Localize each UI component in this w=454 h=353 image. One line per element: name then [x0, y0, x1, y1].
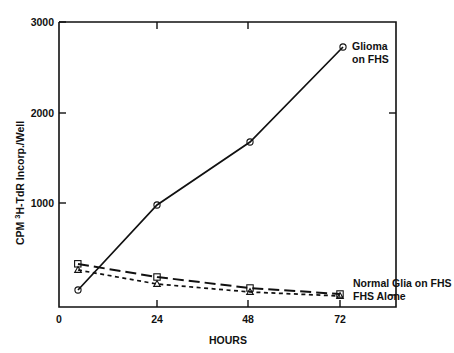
series-glioma-on-fhs [75, 44, 346, 293]
annotation-glioma: Glioma on FHS [352, 40, 389, 65]
y-axis-title: CPM 3H-TdR Incorp./Well [13, 121, 26, 245]
annotation-glioma-line1: Glioma [352, 40, 388, 52]
x-ticklabel-0: 0 [56, 313, 62, 325]
x-axis-ticklabels: 0 24 48 72 [56, 313, 346, 325]
series-normal-glia-line [78, 264, 340, 294]
svg-text:CPM 3H-TdR Incorp./Well: CPM 3H-TdR Incorp./Well [13, 121, 26, 245]
y-axis-ticks [59, 22, 66, 203]
series-normal-glia-on-fhs [75, 261, 344, 298]
x-ticklabel-72: 72 [334, 313, 346, 325]
y-axis-ticklabels: 3000 2000 1000 [31, 16, 55, 209]
series-glioma-line [78, 47, 343, 290]
y-ticklabel-2000: 2000 [31, 107, 55, 119]
y-axis-title-suffix: H-TdR Incorp./Well [14, 121, 26, 215]
chart-svg: 3000 2000 1000 0 24 48 72 HOURS CPM 3H-T… [0, 0, 454, 353]
x-ticklabel-24: 24 [151, 313, 163, 325]
annotation-glioma-line2: on FHS [352, 53, 389, 65]
plot-frame [59, 22, 396, 307]
y-ticklabel-1000: 1000 [31, 197, 55, 209]
chart-figure: 3000 2000 1000 0 24 48 72 HOURS CPM 3H-T… [0, 0, 454, 353]
annotation-fhs-alone: FHS Alone [353, 290, 406, 302]
annotation-lower-series: Normal Glia on FHS FHS Alone [353, 277, 452, 302]
x-ticklabel-48: 48 [242, 313, 254, 325]
y-ticklabel-3000: 3000 [31, 16, 55, 28]
y-axis-title-prefix: CPM [14, 219, 26, 245]
x-axis-title: HOURS [209, 334, 247, 346]
annotation-normal-glia: Normal Glia on FHS [353, 277, 452, 289]
